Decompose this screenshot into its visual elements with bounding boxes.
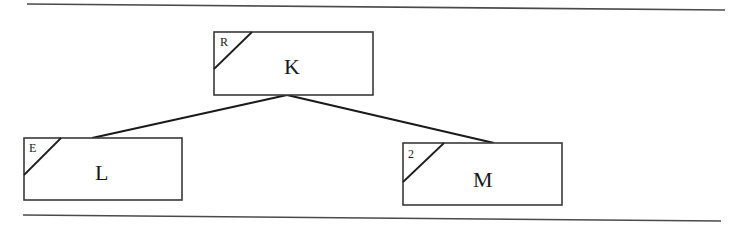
node-m: 2 M xyxy=(403,143,562,205)
edge-k-to-l xyxy=(92,95,287,138)
node-m-label: M xyxy=(473,167,493,192)
edge-k-to-m xyxy=(287,95,494,143)
node-l: E L xyxy=(24,138,182,200)
node-k-label: K xyxy=(284,54,300,79)
node-l-corner-tag: E xyxy=(29,141,36,155)
node-l-label: L xyxy=(95,160,108,185)
top-rule xyxy=(27,4,725,10)
node-k-corner-tag: R xyxy=(220,35,228,49)
bottom-rule xyxy=(23,215,721,221)
node-m-corner-tag: 2 xyxy=(408,147,414,161)
node-k: R K xyxy=(214,32,373,95)
tree-diagram: R K E L 2 M xyxy=(0,0,736,227)
